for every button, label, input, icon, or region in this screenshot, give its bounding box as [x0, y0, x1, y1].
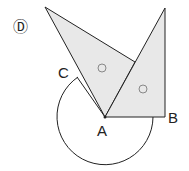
- label-c: C: [58, 64, 69, 81]
- geometry-diagram: Ⓓ C A B: [0, 0, 189, 171]
- label-b: B: [168, 109, 178, 126]
- vertex-a-dot: [104, 116, 107, 119]
- figure-label: Ⓓ: [13, 18, 28, 35]
- label-a: A: [97, 122, 107, 139]
